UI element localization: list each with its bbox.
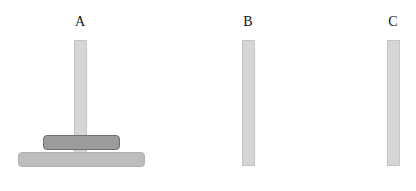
tower-c-pole[interactable] [387, 40, 400, 166]
tower-b-pole[interactable] [242, 40, 255, 166]
tower-b-label: B [238, 14, 258, 30]
disk-large[interactable] [18, 152, 145, 167]
tower-a-label: A [70, 14, 90, 30]
disk-small[interactable] [43, 135, 120, 150]
tower-c-label: C [383, 14, 403, 30]
